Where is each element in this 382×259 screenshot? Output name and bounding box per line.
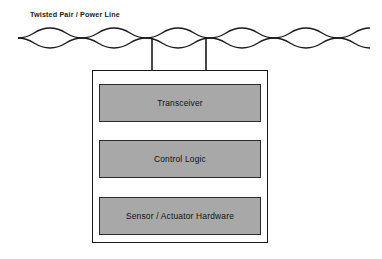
module-sensor-actuator-label: Sensor / Actuator Hardware	[126, 212, 234, 220]
module-transceiver-label: Transceiver	[157, 99, 203, 107]
diagram-canvas: Twisted Pair / Power Line Transceiver Co…	[0, 0, 382, 259]
module-sensor-actuator: Sensor / Actuator Hardware	[99, 197, 261, 235]
twisted-pair-bus-icon	[0, 24, 382, 54]
module-transceiver: Transceiver	[99, 84, 261, 122]
module-control-logic: Control Logic	[99, 140, 261, 178]
bus-label: Twisted Pair / Power Line	[30, 11, 120, 18]
module-control-logic-label: Control Logic	[154, 155, 206, 163]
